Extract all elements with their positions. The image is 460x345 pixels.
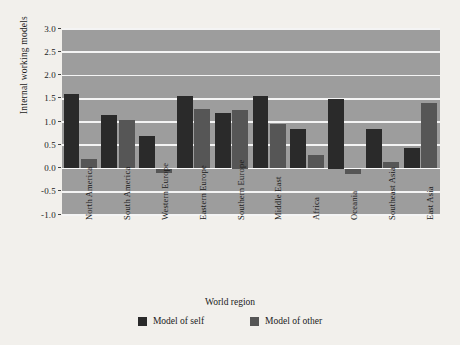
bar-chart-figure: Internal working models 3.02.52.01.51.00… bbox=[0, 0, 460, 345]
x-tick-label: Oceania bbox=[349, 191, 359, 220]
bar-model-of-self bbox=[253, 96, 269, 168]
bar-group bbox=[327, 29, 365, 215]
y-tick-mark bbox=[58, 51, 61, 52]
y-tick-label: -1.0 bbox=[26, 211, 56, 220]
x-tick-label: North America bbox=[84, 167, 94, 220]
y-tick-mark bbox=[58, 144, 61, 145]
bar-model-of-self bbox=[404, 148, 420, 169]
legend-item-model-of-self: Model of self bbox=[138, 316, 204, 326]
bar-model-of-self bbox=[177, 96, 193, 168]
bar-model-of-other bbox=[421, 103, 437, 168]
y-tick-label: 3.0 bbox=[26, 25, 56, 34]
bar-model-of-other bbox=[345, 169, 361, 175]
x-tick-label: Western Europe bbox=[160, 163, 170, 220]
bar-model-of-other bbox=[194, 109, 210, 169]
bar-model-of-self bbox=[101, 115, 117, 168]
x-tick-label: Africa bbox=[311, 197, 321, 220]
plot-area bbox=[62, 29, 440, 215]
y-tick-mark bbox=[58, 97, 61, 98]
bar-model-of-self bbox=[139, 136, 155, 169]
bar-model-of-self bbox=[215, 113, 231, 169]
x-tick-label: Southeast Asia bbox=[387, 167, 397, 220]
y-tick-mark bbox=[58, 167, 61, 168]
x-tick-label: Eastern Europe bbox=[198, 165, 208, 220]
legend-label-self: Model of self bbox=[153, 316, 204, 326]
legend-item-model-of-other: Model of other bbox=[250, 316, 322, 326]
bar-model-of-self bbox=[290, 129, 306, 169]
y-tick-mark bbox=[58, 121, 61, 122]
y-tick-label: 1.0 bbox=[26, 118, 56, 127]
y-tick-label: 2.0 bbox=[26, 71, 56, 80]
chart-legend: Model of self Model of other bbox=[0, 316, 460, 326]
legend-swatch-self bbox=[138, 317, 147, 326]
bar-group bbox=[251, 29, 289, 215]
y-tick-mark bbox=[58, 190, 61, 191]
bar-model-of-self bbox=[328, 99, 344, 169]
y-tick-label: 2.5 bbox=[26, 48, 56, 57]
y-tick-label: 1.5 bbox=[26, 94, 56, 103]
bar-model-of-other bbox=[119, 120, 135, 169]
bar-group bbox=[62, 29, 100, 215]
x-tick-label: Southern Europe bbox=[236, 160, 246, 220]
x-tick-label: East Asia bbox=[425, 186, 435, 220]
y-tick-mark bbox=[58, 214, 61, 215]
bar-model-of-other bbox=[270, 124, 286, 168]
bar-model-of-self bbox=[64, 94, 80, 168]
x-axis-title: World region bbox=[0, 297, 460, 307]
bar-model-of-self bbox=[366, 129, 382, 169]
y-tick-label: -0.5 bbox=[26, 187, 56, 196]
legend-swatch-other bbox=[250, 317, 259, 326]
y-tick-label: 0.0 bbox=[26, 164, 56, 173]
bar-group bbox=[289, 29, 327, 215]
x-tick-label: South America bbox=[122, 167, 132, 220]
legend-label-other: Model of other bbox=[265, 316, 322, 326]
y-tick-mark bbox=[58, 74, 61, 75]
x-tick-label: Middle East bbox=[273, 176, 283, 220]
y-tick-label: 0.5 bbox=[26, 141, 56, 150]
y-tick-mark bbox=[58, 28, 61, 29]
bar-model-of-other bbox=[308, 155, 324, 169]
